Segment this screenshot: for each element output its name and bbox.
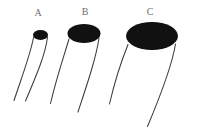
tentacle-b-left bbox=[51, 39, 70, 104]
tentacle-b-right bbox=[78, 38, 99, 112]
panel-label-a: A bbox=[28, 8, 48, 18]
tentacle-c-right bbox=[148, 44, 176, 127]
figure-canvas: A B C bbox=[0, 0, 197, 129]
tentacle-a-left bbox=[14, 38, 34, 101]
panel-a bbox=[14, 30, 48, 101]
bell-c bbox=[126, 22, 178, 50]
panel-label-b: B bbox=[75, 7, 95, 17]
figure-svg bbox=[0, 0, 197, 129]
panel-label-c: C bbox=[140, 7, 160, 17]
bell-a bbox=[33, 30, 48, 40]
panel-c bbox=[110, 22, 179, 127]
panel-b bbox=[51, 24, 101, 112]
tentacle-a-right bbox=[26, 37, 48, 101]
bell-b bbox=[68, 24, 101, 43]
tentacle-c-left bbox=[110, 45, 129, 105]
